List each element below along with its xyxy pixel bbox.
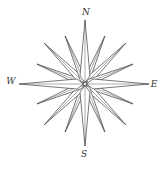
compass-point-e (87, 79, 150, 89)
label-north: N (82, 8, 90, 17)
compass-rose (0, 0, 165, 170)
compass-point-w (19, 79, 84, 89)
compass-point-s (80, 86, 90, 147)
label-south: S (81, 150, 87, 159)
label-east: E (151, 80, 158, 89)
compass-point-n (80, 20, 90, 83)
label-west: W (6, 77, 15, 86)
